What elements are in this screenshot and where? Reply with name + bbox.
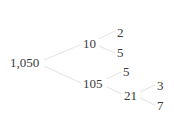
node-7: 7 <box>157 99 164 112</box>
edge-1050-105 <box>44 66 81 83</box>
edge-105-21 <box>107 87 122 94</box>
edge-21-3 <box>140 85 155 92</box>
node-1050: 1,050 <box>10 56 39 69</box>
node-5-mid: 5 <box>123 65 130 78</box>
node-10: 10 <box>83 37 96 50</box>
factor-tree-diagram: 1,050 10 2 5 105 5 21 3 7 <box>0 0 174 119</box>
node-3: 3 <box>157 79 164 92</box>
edge-10-2 <box>99 31 115 39</box>
edge-10-5 <box>99 46 115 53</box>
edge-1050-10 <box>44 45 80 60</box>
node-21: 21 <box>124 89 137 102</box>
edge-105-5 <box>107 72 121 79</box>
node-105: 105 <box>83 77 103 90</box>
node-2: 2 <box>117 26 124 39</box>
edge-21-7 <box>140 98 155 105</box>
node-5-top: 5 <box>117 46 124 59</box>
